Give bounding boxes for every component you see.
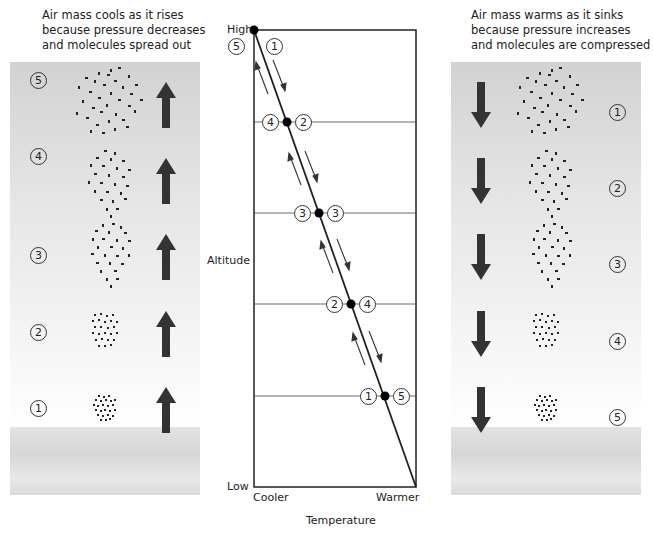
- y-axis-label: Altitude: [207, 254, 250, 267]
- top-left-number: 5: [228, 38, 245, 55]
- point-right-number: 5: [393, 388, 410, 405]
- y-low-label: Low: [227, 480, 249, 493]
- top-right-number: 1: [266, 38, 283, 55]
- point-right-number: 4: [359, 296, 376, 313]
- point-left-number: 4: [262, 114, 279, 131]
- x-warm-label: Warmer: [376, 491, 419, 504]
- point-left-number: 2: [326, 296, 343, 313]
- y-high-label: High: [227, 23, 252, 36]
- point-right-number: 3: [327, 205, 344, 222]
- x-axis-label: Temperature: [306, 514, 376, 527]
- altitude-temperature-chart: [0, 0, 653, 542]
- point-left-number: 1: [360, 388, 377, 405]
- x-cool-label: Cooler: [253, 491, 289, 504]
- point-right-number: 2: [295, 114, 312, 131]
- point-left-number: 3: [294, 205, 311, 222]
